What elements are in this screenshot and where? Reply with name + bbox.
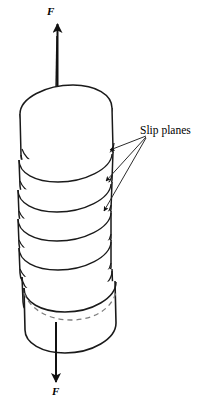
cylinder-body: [18, 85, 116, 353]
force-label-top: F: [47, 6, 54, 17]
slip-planes-label: Slip planes: [140, 125, 191, 137]
force-label-bottom: F: [52, 386, 59, 397]
slip-planes-figure: F F Slip planes: [0, 0, 215, 408]
diagram-canvas: [0, 0, 215, 408]
